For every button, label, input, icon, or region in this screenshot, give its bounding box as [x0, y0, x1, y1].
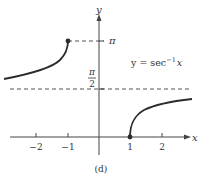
- right-branch-curve: [130, 99, 192, 137]
- x-tick-label: −1: [61, 142, 74, 152]
- y-axis-arrow-icon: [97, 14, 102, 21]
- pi-over-2-denominator: 2: [89, 79, 95, 89]
- y-axis-label: y: [95, 4, 102, 15]
- x-tick-label: 1: [127, 142, 133, 152]
- pi-label: π: [108, 35, 116, 46]
- pi-over-2-numerator: π: [88, 67, 96, 77]
- x-tick-label: −2: [29, 142, 42, 152]
- figure-caption: (d): [95, 164, 108, 174]
- x-tick-label: 2: [159, 142, 165, 152]
- arcsec-graph: y x −2 −1 1 2 π π 2 y = sec−1x (d): [0, 0, 198, 177]
- closed-endpoint-right: [128, 135, 133, 140]
- left-branch-curve: [4, 41, 68, 79]
- closed-endpoint-left: [66, 39, 71, 44]
- function-label: y = sec−1x: [130, 56, 183, 68]
- x-axis-arrow-icon: [184, 135, 191, 140]
- x-axis-label: x: [192, 132, 198, 143]
